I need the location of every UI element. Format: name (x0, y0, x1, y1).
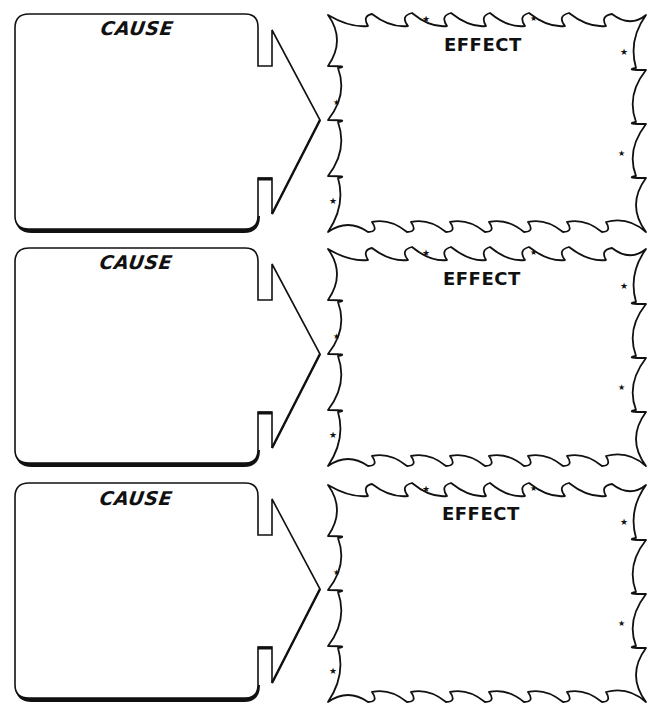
effect-heading: EFFECT (444, 34, 522, 55)
cause-writing-area[interactable] (22, 513, 252, 693)
cause-effect-row-1: CAUSE EFFECT (0, 0, 652, 236)
cause-heading: CAUSE (98, 487, 173, 509)
effect-writing-area[interactable] (352, 60, 622, 210)
cause-heading: CAUSE (99, 17, 174, 39)
effect-heading: EFFECT (443, 268, 521, 289)
cause-effect-row-2: CAUSE EFFECT (0, 234, 652, 470)
cause-writing-area[interactable] (22, 44, 252, 224)
effect-heading: EFFECT (442, 503, 520, 524)
effect-writing-area[interactable] (352, 294, 622, 444)
cause-heading: CAUSE (98, 251, 173, 273)
cause-writing-area[interactable] (22, 278, 252, 458)
cause-effect-row-3: CAUSE EFFECT (0, 469, 652, 705)
effect-writing-area[interactable] (352, 529, 622, 679)
